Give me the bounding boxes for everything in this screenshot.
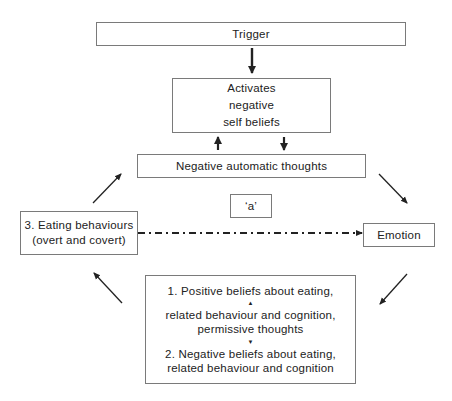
node-beliefs-line-5: related behaviour and cognition	[167, 361, 334, 375]
node-negative-automatic-thoughts: Negative automatic thoughts	[137, 154, 366, 178]
node-nat-label: Negative automatic thoughts	[176, 159, 327, 174]
node-a-text: ‘a’	[245, 199, 257, 214]
node-eating-behaviours: 3. Eating behaviours (overt and covert)	[20, 211, 138, 255]
node-trigger-label: Trigger	[232, 27, 269, 42]
node-beliefs-line-3: permissive thoughts	[197, 322, 303, 336]
node-beliefs-line-4: 2. Negative beliefs about eating,	[165, 347, 336, 361]
node-activates-line-3: self beliefs	[223, 114, 280, 131]
node-activates-negative-self-beliefs: Activates negative self beliefs	[172, 78, 331, 133]
node-eating-line-2: (overt and covert)	[32, 233, 126, 248]
arrow-eating-to-nat	[93, 174, 121, 203]
node-activates-line-2: negative	[229, 97, 274, 114]
node-emotion: Emotion	[363, 223, 435, 247]
node-a-label: ‘a’	[230, 194, 272, 218]
arrow-beliefs-to-eating	[94, 273, 122, 303]
node-trigger: Trigger	[96, 22, 406, 46]
triangle-down-icon: ▼	[247, 337, 253, 347]
node-beliefs-line-2: related behaviour and cognition,	[165, 308, 335, 322]
arrow-emotion-to-beliefs	[380, 274, 407, 304]
node-activates-line-1: Activates	[227, 80, 275, 97]
arrow-nat-to-emotion	[379, 174, 407, 203]
node-beliefs-line-1: 1. Positive beliefs about eating,	[168, 284, 334, 298]
node-emotion-label: Emotion	[377, 228, 421, 243]
triangle-up-icon: ▲	[247, 298, 253, 308]
node-beliefs-about-eating: 1. Positive beliefs about eating, ▲ rela…	[145, 275, 356, 384]
node-eating-line-1: 3. Eating behaviours	[25, 218, 134, 233]
